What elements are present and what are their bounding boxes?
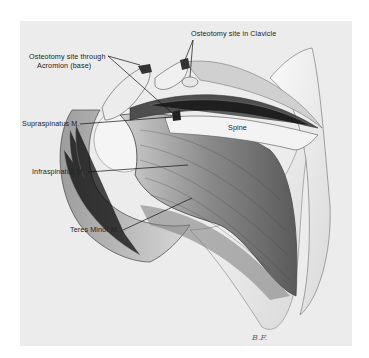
artist-signature: B.F. bbox=[252, 333, 267, 342]
clavicle-distal-end bbox=[182, 77, 198, 87]
label-spine: Spine bbox=[228, 124, 247, 133]
label-infraspinatus: Infraspinatus M. bbox=[32, 168, 85, 177]
label-supraspinatus: Supraspinatus M. bbox=[22, 120, 80, 129]
label-teres-minor: Teres Minor M. bbox=[70, 226, 119, 235]
label-acromion-osteotomy-line2: Acromion (base) bbox=[37, 62, 91, 71]
label-clavicle-osteotomy: Osteotomy site in Clavicle bbox=[191, 30, 276, 39]
